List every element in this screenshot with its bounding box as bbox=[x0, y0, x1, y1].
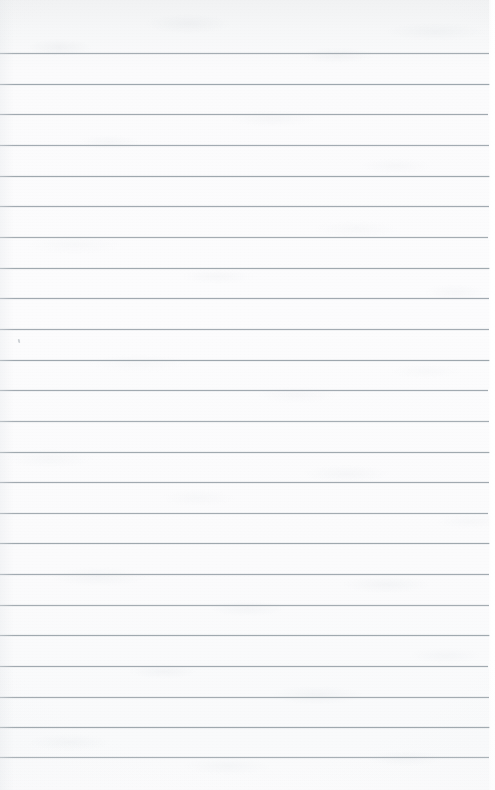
notebook-page bbox=[0, 0, 495, 790]
scan-vignette bbox=[0, 0, 495, 790]
